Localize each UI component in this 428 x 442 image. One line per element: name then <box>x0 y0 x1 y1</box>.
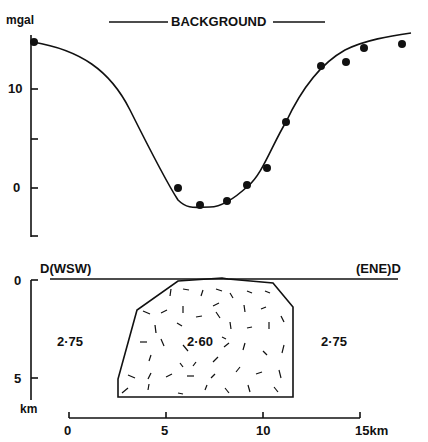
y-tick-label-10: 10 <box>8 82 22 95</box>
background-label: BACKGROUND <box>171 15 266 28</box>
x-tick-label-5: 5 <box>161 424 168 437</box>
density-label-left: 2·75 <box>57 335 83 348</box>
x-tick-label-15km: 15km <box>355 424 388 437</box>
y-axis-unit-label: mgal <box>6 14 34 26</box>
gravity-profile-figure <box>0 0 428 442</box>
depth-tick-label-5: 5 <box>14 372 21 385</box>
calculated-anomaly-curve <box>33 33 411 207</box>
observed-data-points <box>30 38 406 209</box>
x-tick-label-10: 10 <box>256 424 270 437</box>
distance-scale-bar <box>69 412 360 418</box>
x-tick-label-0: 0 <box>64 424 71 437</box>
depth-tick-label-0: 0 <box>14 274 21 287</box>
density-label-right: 2·75 <box>321 335 347 348</box>
gravity-axis <box>31 35 38 237</box>
density-label-body: 2·60 <box>187 335 213 348</box>
left-profile-label: D(WSW) <box>40 262 91 275</box>
y-tick-label-0: 0 <box>13 181 20 194</box>
depth-axis <box>31 280 38 400</box>
right-profile-label: (ENE)D <box>356 262 401 275</box>
depth-unit-label: km <box>20 403 37 415</box>
